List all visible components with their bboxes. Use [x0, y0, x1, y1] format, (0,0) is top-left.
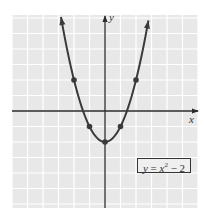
equation-equals: =	[148, 162, 160, 174]
x-axis-label: x	[189, 113, 194, 125]
data-point	[71, 77, 77, 83]
graph	[0, 0, 205, 221]
data-point	[87, 124, 93, 130]
data-point	[133, 77, 139, 83]
data-point	[118, 124, 124, 130]
equation-label: y = x2 − 2	[137, 158, 191, 173]
equation-constant: − 2	[168, 162, 185, 174]
y-axis-label: y	[109, 11, 114, 23]
data-point	[102, 139, 108, 145]
